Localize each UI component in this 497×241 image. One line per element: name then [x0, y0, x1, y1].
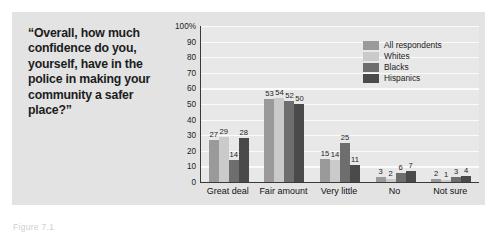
bar: [320, 159, 330, 182]
bar: [376, 177, 386, 182]
legend-item: All respondents: [363, 40, 442, 51]
bar: [350, 165, 360, 182]
x-axis-tick-label: Not sure: [433, 186, 467, 196]
y-axis-tick-label: 50: [160, 100, 196, 109]
y-axis-tick-label: 100%: [160, 22, 196, 31]
chart-plot: 0102030405060708090100% 2729142853545250…: [160, 26, 478, 196]
bar: [441, 180, 451, 182]
bar: [461, 176, 471, 182]
bar: [451, 177, 461, 182]
x-axis-tick-label: No: [389, 186, 401, 196]
bar-value-label: 50: [288, 95, 310, 103]
bar-slot: 14: [330, 26, 340, 182]
x-axis-tick-label: Fair amount: [259, 186, 307, 196]
y-axis-tick-label: 70: [160, 68, 196, 77]
legend-swatch-icon: [363, 63, 379, 72]
bar-slot: 11: [350, 26, 360, 182]
bar-slot: 50: [294, 26, 304, 182]
question-text: “Overall, how much confidence do you, yo…: [28, 26, 160, 118]
x-axis-tick-label: Great deal: [207, 186, 249, 196]
bar-group: 15142511: [319, 26, 361, 182]
bar-slot: 54: [274, 26, 284, 182]
y-axis-tick-label: 0: [160, 178, 196, 187]
y-axis-tick-label: 20: [160, 146, 196, 155]
bar: [284, 101, 294, 182]
legend-label: All respondents: [384, 41, 442, 50]
figure-caption: Figure 7.1: [13, 222, 54, 232]
bar-value-label: 7: [400, 162, 422, 170]
plot-area: 27291428535452501514251132672134 All res…: [200, 26, 479, 183]
y-axis-tick-label: 60: [160, 84, 196, 93]
bar-slot: 28: [239, 26, 249, 182]
bar: [386, 179, 396, 182]
bar: [396, 173, 406, 182]
legend-item: Blacks: [363, 62, 442, 73]
bar: [239, 138, 249, 182]
bar-slot: 27: [209, 26, 219, 182]
bar: [330, 160, 340, 182]
y-axis-tick-label: 80: [160, 53, 196, 62]
bar: [264, 99, 274, 182]
bar-slot: 53: [264, 26, 274, 182]
x-axis-tick-label: Very little: [321, 186, 358, 196]
bar-slot: 4: [461, 26, 471, 182]
bar: [219, 137, 229, 182]
bar-value-label: 28: [233, 129, 255, 137]
legend-item: Whites: [363, 51, 442, 62]
y-axis-tick-label: 90: [160, 37, 196, 46]
legend-swatch-icon: [363, 74, 379, 83]
legend-label: Whites: [384, 52, 410, 61]
chart-legend: All respondentsWhitesBlacksHispanics: [363, 40, 442, 84]
bar-group: 27291428: [208, 26, 250, 182]
y-axis-tick-label: 30: [160, 131, 196, 140]
bar-group: 53545250: [263, 26, 305, 182]
figure-panel: “Overall, how much confidence do you, yo…: [12, 12, 485, 205]
bar-slot: 3: [451, 26, 461, 182]
legend-label: Blacks: [384, 63, 409, 72]
y-axis-tick-label: 40: [160, 115, 196, 124]
bar: [406, 171, 416, 182]
bar-slot: 1: [441, 26, 451, 182]
bar-slot: 52: [284, 26, 294, 182]
legend-swatch-icon: [363, 41, 379, 50]
bar: [274, 98, 284, 182]
bar: [229, 160, 239, 182]
bar: [294, 104, 304, 182]
bar-value-label: 11: [344, 156, 366, 164]
legend-swatch-icon: [363, 52, 379, 61]
y-axis: 0102030405060708090100%: [160, 26, 196, 182]
legend-label: Hispanics: [384, 74, 420, 83]
legend-item: Hispanics: [363, 73, 442, 84]
bar: [209, 140, 219, 182]
bar-slot: 14: [229, 26, 239, 182]
bar-value-label: 4: [455, 167, 477, 175]
y-axis-tick-label: 10: [160, 162, 196, 171]
x-axis: Great dealFair amountVery littleNoNot su…: [200, 186, 478, 200]
